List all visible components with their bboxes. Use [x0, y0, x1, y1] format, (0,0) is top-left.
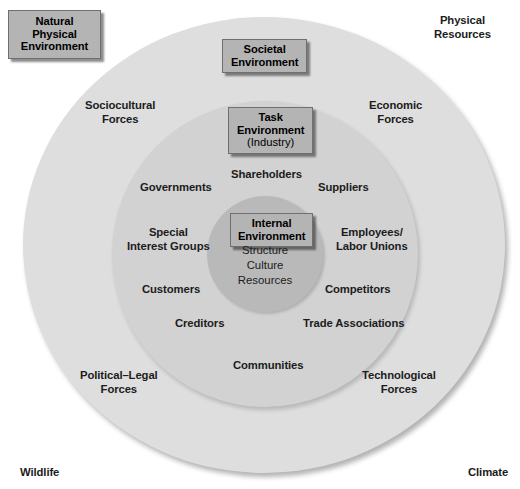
task-environment-sublabel: (Industry)	[237, 136, 304, 149]
employees-labor-unions-label: Employees/ Labor Unions	[336, 226, 408, 253]
climate-label: Climate	[468, 466, 508, 479]
economic-forces-label: Economic Forces	[369, 99, 422, 126]
trade-associations-label: Trade Associations	[303, 317, 404, 330]
physical-resources-line-1: Physical	[440, 14, 485, 26]
internal-element-structure: Structure	[207, 243, 323, 258]
employees-labor-unions-line-1: Employees/	[341, 226, 403, 238]
economic-forces-line-2: Forces	[377, 113, 413, 125]
societal-environment-line-1: Societal	[244, 43, 286, 55]
task-environment-line-1: Task	[259, 111, 283, 123]
competitors-label: Competitors	[325, 283, 390, 296]
wildlife-label: Wildlife	[20, 466, 59, 479]
special-interest-groups-line-1: Special	[149, 226, 188, 238]
sociocultural-forces-line-2: Forces	[102, 113, 138, 125]
internal-environment-elements: Structure Culture Resources	[207, 243, 323, 288]
natural-physical-environment-line-1: Natural	[36, 15, 74, 27]
physical-resources-line-2: Resources	[434, 28, 491, 40]
technological-forces-line-1: Technological	[362, 369, 436, 381]
internal-environment-line-1: Internal	[252, 217, 292, 229]
governments-label: Governments	[140, 181, 212, 194]
political-legal-forces-line-2: Forces	[101, 383, 137, 395]
environment-model-diagram: Natural Physical Environment Physical Re…	[0, 0, 520, 489]
task-environment-line-2: Environment	[237, 124, 304, 136]
internal-environment-label: Internal Environment	[230, 213, 313, 247]
sociocultural-forces-label: Sociocultural Forces	[85, 99, 155, 126]
task-environment-label: Task Environment (Industry)	[228, 107, 313, 154]
internal-environment-line-2: Environment	[238, 230, 305, 242]
shareholders-label: Shareholders	[231, 168, 302, 181]
special-interest-groups-label: Special Interest Groups	[127, 226, 210, 253]
societal-environment-label: Societal Environment	[222, 39, 307, 73]
natural-physical-environment-line-2: Physical	[32, 28, 77, 40]
societal-environment-line-2: Environment	[231, 56, 298, 68]
creditors-label: Creditors	[175, 317, 224, 330]
internal-element-resources: Resources	[207, 273, 323, 288]
suppliers-label: Suppliers	[318, 181, 369, 194]
technological-forces-line-2: Forces	[381, 383, 417, 395]
employees-labor-unions-line-2: Labor Unions	[336, 240, 408, 252]
natural-physical-environment-label: Natural Physical Environment	[8, 10, 101, 59]
political-legal-forces-line-1: Political–Legal	[80, 369, 158, 381]
sociocultural-forces-line-1: Sociocultural	[85, 99, 155, 111]
customers-label: Customers	[142, 283, 200, 296]
physical-resources-label: Physical Resources	[434, 14, 491, 41]
political-legal-forces-label: Political–Legal Forces	[80, 369, 158, 396]
internal-element-culture: Culture	[207, 258, 323, 273]
special-interest-groups-line-2: Interest Groups	[127, 240, 210, 252]
natural-physical-environment-line-3: Environment	[21, 40, 88, 52]
technological-forces-label: Technological Forces	[362, 369, 436, 396]
economic-forces-line-1: Economic	[369, 99, 422, 111]
communities-label: Communities	[233, 359, 303, 372]
